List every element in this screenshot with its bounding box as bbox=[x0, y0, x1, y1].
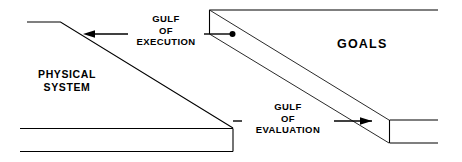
gulf-execution-line3: EXECUTION bbox=[130, 36, 202, 48]
gulf-evaluation-arrowhead-icon bbox=[360, 117, 372, 125]
gulf-of-execution-label: GULF OF EXECUTION bbox=[130, 13, 202, 48]
gulfs-diagram: GULF OF EXECUTION GULF OF EVALUATION GOA… bbox=[0, 0, 462, 162]
gulf-evaluation-line3: EVALUATION bbox=[245, 124, 331, 136]
gulf-evaluation-line1: GULF bbox=[245, 101, 331, 113]
gulf-execution-origin-dot-icon bbox=[230, 31, 236, 37]
physical-system-label: PHYSICAL SYSTEM bbox=[28, 68, 106, 94]
gulf-execution-line2: OF bbox=[130, 25, 202, 37]
goals-label: GOALS bbox=[337, 37, 387, 52]
physical-system-line1: PHYSICAL bbox=[28, 68, 106, 81]
gulf-execution-line1: GULF bbox=[130, 13, 202, 25]
physical-system-line2: SYSTEM bbox=[28, 81, 106, 94]
gulf-of-evaluation-label: GULF OF EVALUATION bbox=[245, 101, 331, 136]
gulf-evaluation-line2: OF bbox=[245, 113, 331, 125]
